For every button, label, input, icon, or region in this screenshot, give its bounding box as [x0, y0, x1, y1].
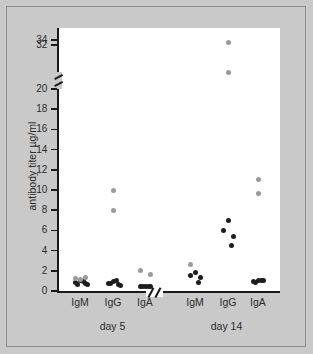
- data-point-day14-IgA-light: [256, 177, 261, 182]
- y-tick-label-4: 4: [42, 246, 47, 256]
- y-tick-label-8: 8: [42, 205, 47, 215]
- data-point-day14-IgA-dark: [259, 278, 264, 283]
- y-tick-label-6: 6: [42, 225, 47, 235]
- data-point-day5-IgG-light: [111, 208, 116, 213]
- data-point-day14-IgM-dark: [188, 273, 193, 278]
- data-point-day14-IgG-dark: [229, 243, 234, 248]
- data-point-day5-IgM-dark: [75, 282, 80, 287]
- page-background: antibody titer µg/ml 0246810121416182032…: [0, 0, 313, 354]
- data-point-day14-IgG-dark: [226, 218, 231, 223]
- data-point-day14-IgM-dark: [196, 280, 201, 285]
- y-tick-label-14: 14: [36, 145, 47, 155]
- data-point-day14-IgG-dark: [221, 228, 226, 233]
- data-point-day5-IgA-light: [138, 268, 143, 273]
- y-tick-label-10: 10: [36, 185, 47, 195]
- y-axis-line: [57, 28, 59, 292]
- dot-plot-chart: antibody titer µg/ml 0246810121416182032…: [0, 0, 313, 354]
- data-point-day14-IgM-dark: [193, 270, 198, 275]
- y-tick-label-18: 18: [36, 104, 47, 114]
- y-tick-18: [51, 108, 57, 110]
- data-point-day14-IgM-dark: [198, 275, 203, 280]
- x-axis-label-day5-IgA: IgA: [122, 296, 168, 308]
- y-tick-14: [51, 149, 57, 151]
- data-point-day14-IgA-dark: [253, 280, 258, 285]
- data-point-day14-IgA-light: [256, 191, 261, 196]
- data-point-day14-IgG-dark: [231, 234, 236, 239]
- y-tick-label-34: 34: [36, 35, 47, 45]
- y-tick-label-0: 0: [42, 286, 47, 296]
- y-tick-10: [51, 189, 57, 191]
- data-point-day5-IgG-dark: [108, 281, 113, 286]
- y-tick-6: [51, 230, 57, 232]
- y-tick-label-20: 20: [36, 84, 47, 94]
- data-point-day5-IgG-light: [111, 188, 116, 193]
- data-point-day5-IgM-light: [78, 277, 83, 282]
- y-tick-label-16: 16: [36, 124, 47, 134]
- data-point-day5-IgM-light: [83, 275, 88, 280]
- x-axis-label-day14-IgA: IgA: [235, 296, 281, 308]
- data-point-day14-IgM-light: [188, 262, 193, 267]
- y-tick-20: [51, 88, 57, 90]
- data-point-day5-IgM-light: [73, 276, 78, 281]
- x-axis-group-label-day14: day 14: [182, 320, 272, 332]
- y-tick-2: [51, 270, 57, 272]
- y-tick-4: [51, 250, 57, 252]
- data-point-day5-IgA-light: [148, 272, 153, 277]
- y-axis-break-icon: [52, 72, 62, 89]
- y-tick-12: [51, 169, 57, 171]
- y-tick-8: [51, 209, 57, 211]
- data-point-day5-IgG-dark: [114, 278, 119, 283]
- y-tick-label-12: 12: [36, 165, 47, 175]
- y-tick-0: [51, 290, 57, 292]
- y-tick-34: [51, 39, 57, 41]
- data-point-day14-IgG-light: [226, 40, 231, 45]
- y-tick-32: [51, 44, 57, 46]
- plot-area: [58, 28, 280, 292]
- y-tick-16: [51, 129, 57, 131]
- x-axis-group-label-day5: day 5: [68, 320, 158, 332]
- data-point-day14-IgG-light: [226, 70, 231, 75]
- x-axis-line: [57, 291, 280, 293]
- y-tick-label-2: 2: [42, 266, 47, 276]
